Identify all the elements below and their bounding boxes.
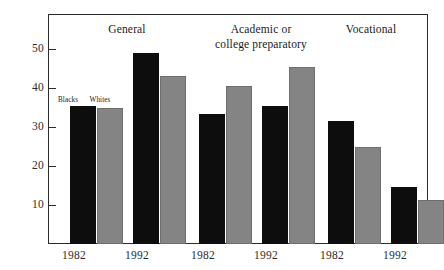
legend-label-whites: Whites	[83, 96, 117, 104]
bar-chart: 50 40 30 20 10 Blacks Whites 1982 1992 1…	[0, 0, 444, 270]
x-axis-label-academic-1992: 1992	[240, 249, 292, 261]
x-axis-label-general-1992: 1992	[111, 249, 163, 261]
bar-general-1982-whites	[97, 108, 123, 244]
bar-academic-1992-blacks	[262, 106, 288, 244]
bar-general-1992-whites	[160, 76, 186, 244]
group-title-vocational-line1: Vocational	[316, 22, 426, 36]
group-title-academic-line1: Academic or	[196, 22, 326, 36]
y-axis-label-50: 50	[4, 43, 44, 55]
bar-general-1992-blacks	[133, 53, 159, 244]
x-axis-label-vocational-1992: 1992	[369, 249, 421, 261]
bar-vocational-1992-whites	[418, 200, 444, 244]
x-axis-label-general-1982: 1982	[48, 249, 100, 261]
y-axis-label-20: 20	[4, 160, 44, 172]
bar-academic-1992-whites	[289, 67, 315, 244]
x-axis-label-vocational-1982: 1982	[306, 249, 358, 261]
bar-vocational-1982-blacks	[328, 121, 354, 244]
x-axis-label-academic-1982: 1982	[177, 249, 229, 261]
y-axis-label-10: 10	[4, 199, 44, 211]
legend-label-blacks: Blacks	[52, 96, 84, 104]
bar-academic-1982-whites	[226, 86, 252, 244]
group-title-general-line1: General	[72, 22, 182, 36]
bar-vocational-1992-blacks	[391, 187, 417, 244]
y-axis-label-30: 30	[4, 121, 44, 133]
bar-general-1982-blacks	[70, 106, 96, 244]
y-axis-label-40: 40	[4, 82, 44, 94]
bar-academic-1982-blacks	[199, 114, 225, 244]
bar-vocational-1982-whites	[355, 147, 381, 244]
group-title-academic-line2: college preparatory	[186, 37, 336, 51]
y-axis-labels: 50 40 30 20 10	[0, 0, 44, 270]
